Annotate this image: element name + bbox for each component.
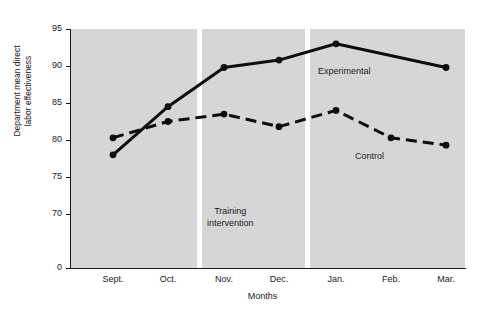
data-point-marker xyxy=(165,103,172,110)
data-point-marker xyxy=(443,142,450,149)
data-point-marker xyxy=(110,151,117,158)
data-point-marker xyxy=(221,64,228,71)
chart-figure: 95 90 85 80 75 70 0 Department mean dire… xyxy=(0,0,485,321)
data-point-marker xyxy=(443,64,450,71)
annotation-training-intervention: Training intervention xyxy=(207,205,254,229)
data-point-marker xyxy=(333,107,340,114)
data-point-marker xyxy=(276,57,283,64)
annotation-control: Control xyxy=(355,150,384,162)
annotation-experimental: Experimental xyxy=(318,65,371,77)
data-point-marker xyxy=(388,134,395,141)
data-series-layer xyxy=(0,0,485,321)
data-point-marker xyxy=(276,123,283,130)
data-point-marker xyxy=(110,134,117,141)
data-point-marker xyxy=(165,118,172,125)
data-point-marker xyxy=(333,40,340,47)
data-point-marker xyxy=(221,111,228,118)
